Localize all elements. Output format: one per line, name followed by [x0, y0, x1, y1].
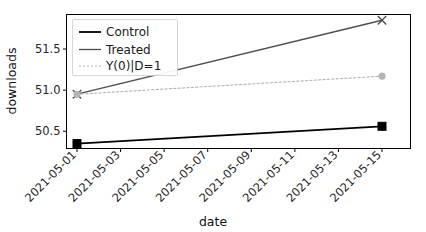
y-tick-marks — [63, 49, 67, 131]
series-y-0-d-1 — [74, 73, 385, 97]
legend-items: ControlTreatedY(0)|D=1 — [79, 25, 161, 73]
series-line — [77, 126, 382, 143]
legend-label: Treated — [105, 43, 151, 57]
x-axis-title: date — [199, 214, 227, 229]
series-0-pt-0-square-marker — [73, 140, 81, 148]
x-tick-labels: 2021-05-012021-05-032021-05-052021-05-07… — [22, 148, 384, 205]
x-tick-marks — [77, 149, 382, 153]
chart-figure: 50.551.051.5 2021-05-012021-05-032021-05… — [0, 0, 426, 232]
y-tick-label: 51.5 — [35, 42, 61, 56]
series-0-pt-1-square-marker — [378, 122, 386, 130]
series-2-pt-0-circle-marker — [74, 91, 80, 97]
legend-label: Control — [106, 25, 149, 39]
series-control — [73, 122, 386, 147]
y-tick-labels: 50.551.051.5 — [35, 42, 61, 138]
chart-legend: ControlTreatedY(0)|D=1 — [73, 20, 178, 76]
line-chart: 50.551.051.5 2021-05-012021-05-032021-05… — [0, 0, 426, 232]
y-tick-label: 50.5 — [35, 124, 61, 138]
series-2-pt-1-circle-marker — [379, 73, 385, 79]
legend-label: Y(0)|D=1 — [105, 59, 161, 73]
y-tick-label: 51.0 — [35, 83, 61, 97]
series-1-pt-1-x-marker — [378, 16, 386, 24]
y-axis-title: downloads — [4, 48, 19, 115]
series-line — [77, 76, 382, 94]
